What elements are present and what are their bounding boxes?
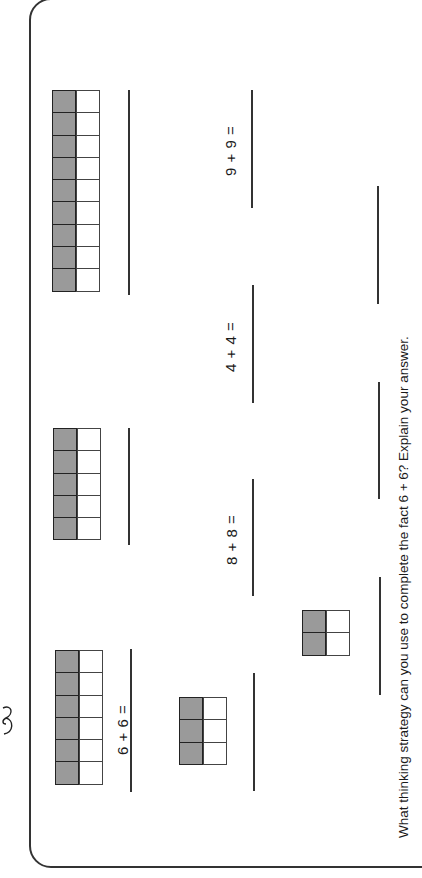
answer-line[interactable] xyxy=(128,428,130,545)
frame-cell-filled xyxy=(53,517,77,540)
frame-cell-empty xyxy=(76,90,100,113)
frame-cell-filled xyxy=(52,224,76,247)
equation-line[interactable] xyxy=(253,673,255,791)
frame-cell-filled xyxy=(53,450,77,473)
frame-cell-filled xyxy=(53,428,77,451)
frame-cell-empty xyxy=(203,697,227,720)
frame-cell-filled xyxy=(55,739,79,762)
frame-cell-empty xyxy=(76,179,100,202)
frame-cell-empty xyxy=(76,224,100,247)
frame-cell-empty xyxy=(77,473,101,496)
frame-cell-empty xyxy=(77,450,101,473)
frame-cell-filled xyxy=(52,90,76,113)
frame-cell-empty xyxy=(79,761,103,784)
frame-cell-filled xyxy=(52,246,76,269)
frame-cell-empty xyxy=(79,695,103,718)
answer-line[interactable] xyxy=(377,186,379,304)
frame-cell-empty xyxy=(77,517,101,540)
frame-cell-empty xyxy=(79,672,103,695)
equation-9-plus-9: 9 + 9 = xyxy=(222,126,239,176)
frame-cell-filled xyxy=(52,157,76,180)
frame-cell-empty xyxy=(79,650,103,673)
frame-cell-filled xyxy=(52,201,76,224)
frame-cell-empty xyxy=(203,742,227,765)
frame-cell-empty xyxy=(76,157,100,180)
answer-line[interactable] xyxy=(378,382,380,499)
frame-cell-filled xyxy=(302,632,326,655)
frame-cell-empty xyxy=(76,246,100,269)
equation-6-plus-6: 6 + 6 = xyxy=(114,705,131,755)
frame-cell-filled xyxy=(55,672,79,695)
frame-cell-filled xyxy=(55,650,79,673)
frame-cell-empty xyxy=(76,112,100,135)
frame-cell-filled xyxy=(55,717,79,740)
equation-4-plus-4: 4 + 4 = xyxy=(222,322,239,372)
frame-cell-filled xyxy=(52,135,76,158)
frame-cell-empty xyxy=(79,717,103,740)
equation-line[interactable] xyxy=(252,285,254,403)
frame-cell-filled xyxy=(53,495,77,518)
frame-cell-filled xyxy=(52,179,76,202)
ten-frame-5-rows xyxy=(53,428,101,539)
equation-8-plus-8: 8 + 8 = xyxy=(223,515,240,565)
frame-cell-empty xyxy=(77,495,101,518)
ten-frame-9-rows xyxy=(52,90,100,291)
frame-cell-filled xyxy=(52,112,76,135)
frame-cell-filled xyxy=(179,742,203,765)
frame-cell-empty xyxy=(76,268,100,291)
ten-frame-2-rows xyxy=(302,610,350,655)
equation-line[interactable] xyxy=(252,479,254,596)
ten-frame-6-rows xyxy=(55,650,103,784)
frame-cell-filled xyxy=(55,695,79,718)
frame-cell-filled xyxy=(53,473,77,496)
frame-cell-empty xyxy=(326,610,350,633)
frame-cell-filled xyxy=(179,719,203,742)
answer-line[interactable] xyxy=(379,577,381,695)
frame-cell-empty xyxy=(77,428,101,451)
frame-cell-filled xyxy=(55,761,79,784)
frame-cell-empty xyxy=(203,719,227,742)
butterfly-doodle-icon xyxy=(0,704,20,738)
answer-line[interactable] xyxy=(128,90,130,295)
frame-cell-filled xyxy=(52,268,76,291)
ten-frame-3-rows xyxy=(179,697,227,764)
frame-cell-empty xyxy=(79,739,103,762)
frame-cell-empty xyxy=(76,201,100,224)
frame-cell-filled xyxy=(179,697,203,720)
frame-cell-empty xyxy=(326,632,350,655)
frame-cell-filled xyxy=(302,610,326,633)
frame-cell-empty xyxy=(76,135,100,158)
equation-line[interactable] xyxy=(251,90,253,208)
question-prompt: What thinking strategy can you use to co… xyxy=(396,336,411,838)
